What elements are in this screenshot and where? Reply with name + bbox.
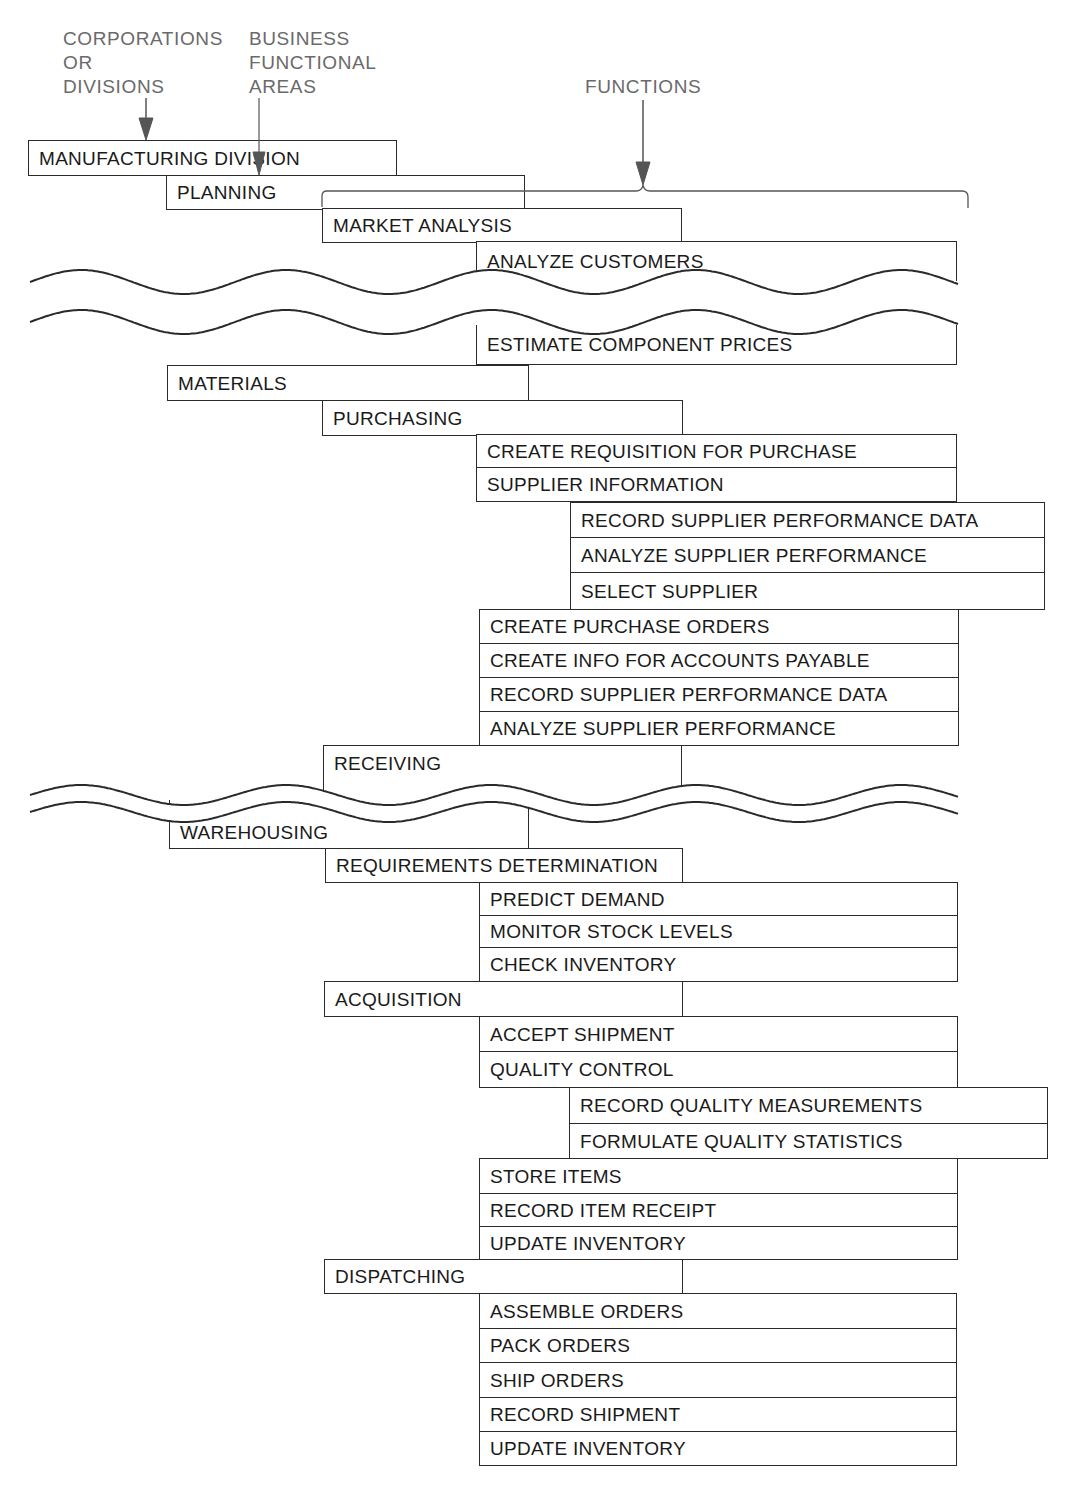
box-function-check-inventory: CHECK INVENTORY [479, 947, 958, 982]
box-function-update-inventory: UPDATE INVENTORY [479, 1226, 958, 1260]
box-sub-area-dispatching: DISPATCHING [324, 1259, 683, 1294]
box-sub-area-market-analysis: MARKET ANALYSIS [322, 208, 682, 243]
header-business-functional-areas: BUSINESS FUNCTIONAL AREAS [249, 27, 376, 99]
box-sub-function-record-quality-measurements: RECORD QUALITY MEASUREMENTS [569, 1087, 1048, 1124]
box-function-pack-orders: PACK ORDERS [479, 1328, 957, 1363]
box-function-estimate-component-prices: ESTIMATE COMPONENT PRICES [476, 325, 957, 365]
arrow-down-icon [139, 98, 153, 140]
box-function-ship-orders: SHIP ORDERS [479, 1362, 957, 1398]
box-sub-area-acquisition: ACQUISITION [324, 981, 683, 1017]
box-function-analyze-customers: ANALYZE CUSTOMERS [476, 241, 957, 281]
header-functions: FUNCTIONS [585, 75, 701, 99]
box-area-warehousing: WAREHOUSING [169, 800, 529, 849]
box-sub-area-requirements-determination: REQUIREMENTS DETERMINATION [325, 848, 683, 883]
box-function-record-shipment: RECORD SHIPMENT [479, 1397, 957, 1432]
box-function-record-item-receipt: RECORD ITEM RECEIPT [479, 1193, 958, 1227]
box-sub-function-formulate-quality-statistics: FORMULATE QUALITY STATISTICS [569, 1123, 1048, 1159]
box-area-materials: MATERIALS [167, 365, 529, 401]
box-function-create-info-for-accounts-payable: CREATE INFO FOR ACCOUNTS PAYABLE [479, 643, 959, 678]
box-function-predict-demand: PREDICT DEMAND [479, 882, 958, 916]
box-sub-function-analyze-supplier-performance: ANALYZE SUPPLIER PERFORMANCE [570, 537, 1045, 573]
box-function-analyze-supplier-performance: ANALYZE SUPPLIER PERFORMANCE [479, 711, 959, 746]
box-sub-function-record-supplier-performance-data: RECORD SUPPLIER PERFORMANCE DATA [570, 502, 1045, 538]
box-sub-area-receiving: RECEIVING [323, 745, 682, 803]
arrow-down-icon [636, 100, 650, 185]
box-function-accept-shipment: ACCEPT SHIPMENT [479, 1016, 958, 1052]
box-division-manufacturing-division: MANUFACTURING DIVISION [28, 140, 397, 176]
box-sub-function-select-supplier: SELECT SUPPLIER [570, 572, 1045, 610]
header-corporations-or-divisions: CORPORATIONS OR DIVISIONS [63, 27, 223, 99]
box-function-create-requisition-for-purchase: CREATE REQUISITION FOR PURCHASE [476, 434, 957, 469]
box-function-assemble-orders: ASSEMBLE ORDERS [479, 1293, 957, 1329]
box-function-monitor-stock-levels: MONITOR STOCK LEVELS [479, 915, 958, 948]
box-area-planning: PLANNING [166, 175, 525, 210]
hierarchy-diagram: CORPORATIONS OR DIVISIONS BUSINESS FUNCT… [0, 0, 1076, 1492]
box-function-supplier-information: SUPPLIER INFORMATION [476, 467, 957, 502]
box-function-store-items: STORE ITEMS [479, 1158, 958, 1194]
box-function-record-supplier-performance-data: RECORD SUPPLIER PERFORMANCE DATA [479, 677, 959, 712]
box-function-update-inventory: UPDATE INVENTORY [479, 1431, 957, 1466]
box-sub-area-purchasing: PURCHASING [322, 400, 683, 436]
box-function-create-purchase-orders: CREATE PURCHASE ORDERS [479, 609, 959, 644]
box-function-quality-control: QUALITY CONTROL [479, 1051, 958, 1088]
